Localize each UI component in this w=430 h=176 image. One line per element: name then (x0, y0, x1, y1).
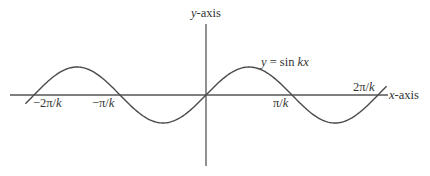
sine-wave-diagram: y-axis y = sin kx x-axis −2π/k −π/k π/k … (0, 0, 430, 176)
tick-label-2pi-over-k: 2π/k (353, 80, 375, 94)
x-axis-label: x-axis (388, 88, 419, 102)
tick-label-pi-over-k: π/k (273, 96, 289, 110)
equation-label: y = sin kx (259, 55, 309, 69)
tick-label-neg-pi-over-k: −π/k (92, 96, 115, 110)
y-axis-label: y-axis (189, 6, 221, 20)
tick-label-neg-2pi-over-k: −2π/k (33, 96, 62, 110)
